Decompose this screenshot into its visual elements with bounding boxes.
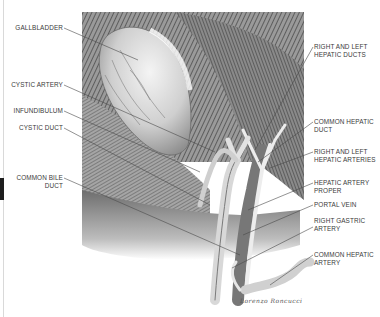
label-line: RIGHT AND LEFT <box>314 148 376 156</box>
label-common-hepatic-artery: COMMON HEPATIC ARTERY <box>314 251 374 266</box>
label-portal-vein: PORTAL VEIN <box>314 201 357 209</box>
label-right-gastric-artery: RIGHT GASTRIC ARTERY <box>314 217 365 232</box>
label-line: RIGHT AND LEFT <box>314 43 367 51</box>
label-line: HEPATIC DUCTS <box>314 51 367 59</box>
label-right-left-hepatic-ducts: RIGHT AND LEFT HEPATIC DUCTS <box>314 43 367 58</box>
label-line: COMMON BILE <box>16 174 63 182</box>
label-hepatic-artery-proper: HEPATIC ARTERY PROPER <box>314 179 369 194</box>
label-gallbladder: GALLBLADDER <box>15 24 63 32</box>
label-common-bile-duct: COMMON BILE DUCT <box>16 174 63 189</box>
label-common-hepatic-duct: COMMON HEPATIC DUCT <box>314 118 374 133</box>
label-line: ARTERY <box>314 259 374 267</box>
label-cystic-artery: CYSTIC ARTERY <box>11 81 63 89</box>
label-right-left-hepatic-arteries: RIGHT AND LEFT HEPATIC ARTERIES <box>314 148 376 163</box>
label-line: HEPATIC ARTERY <box>314 179 369 187</box>
label-cystic-duct: CYSTIC DUCT <box>19 124 63 132</box>
label-line: COMMON HEPATIC <box>314 118 374 126</box>
label-line: DUCT <box>314 126 374 134</box>
label-line: ARTERY <box>314 225 365 233</box>
label-line: HEPATIC ARTERIES <box>314 156 376 164</box>
label-line: RIGHT GASTRIC <box>314 217 365 225</box>
label-infundibulum: INFUNDIBULUM <box>14 107 64 115</box>
label-line: DUCT <box>16 182 63 190</box>
label-line: PROPER <box>314 187 369 195</box>
label-line: COMMON HEPATIC <box>314 251 374 259</box>
leader-common-hepatic-artery <box>270 255 313 285</box>
artist-signature: Lorenzo Roncucci <box>240 297 302 304</box>
